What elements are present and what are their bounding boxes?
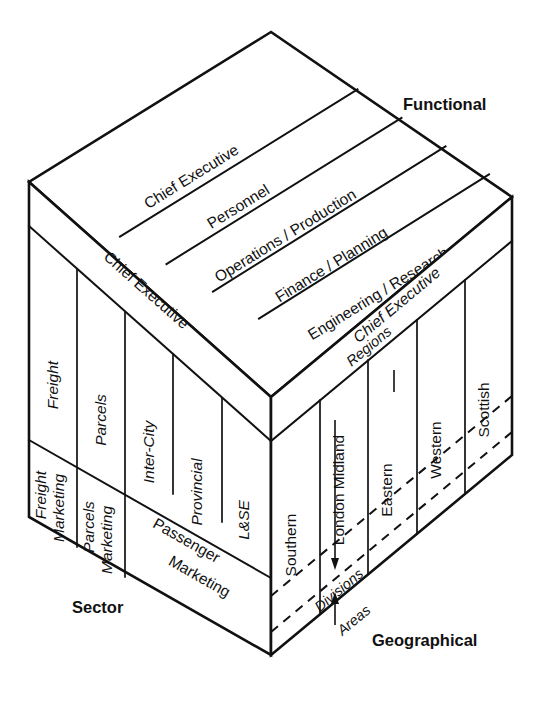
left-lower-label-1a: Freight bbox=[32, 470, 49, 519]
right-col-label-5: Scottish bbox=[475, 382, 492, 437]
left-lower-label-2b: Marketing bbox=[98, 506, 115, 574]
diagram-root: Chief Executive Personnel Operations / P… bbox=[0, 0, 541, 705]
left-col-label-5: L&SE bbox=[235, 500, 252, 540]
axis-label-sector: Sector bbox=[72, 598, 124, 616]
left-lower-label-2a: Parcels bbox=[80, 501, 97, 553]
axis-label-geographical: Geographical bbox=[372, 631, 477, 649]
right-col-label-3: Eastern bbox=[378, 463, 395, 516]
axis-label-functional: Functional bbox=[403, 95, 486, 113]
left-col-label-1: Freight bbox=[44, 360, 61, 409]
left-col-label-3: Inter-City bbox=[140, 419, 157, 483]
right-col-label-4: Western bbox=[427, 421, 444, 478]
right-col-label-1: Southern bbox=[282, 514, 299, 577]
left-col-label-2: Parcels bbox=[92, 394, 109, 446]
left-col-label-4: Provincial bbox=[188, 458, 205, 526]
left-lower-label-1b: Marketing bbox=[50, 474, 67, 542]
right-col-label-2: London Midland bbox=[330, 435, 347, 545]
right-level-label-areas: Areas bbox=[333, 602, 373, 639]
organisation-cube-diagram: Chief Executive Personnel Operations / P… bbox=[0, 0, 541, 705]
